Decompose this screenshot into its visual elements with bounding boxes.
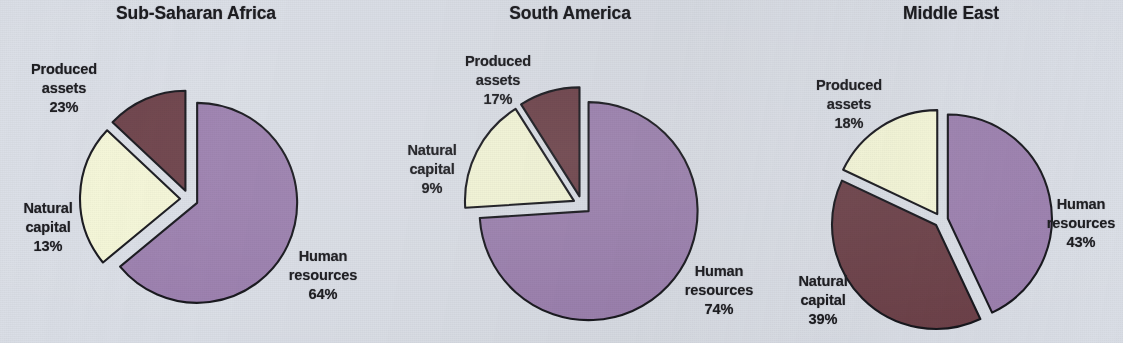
label-line-1: Natural bbox=[775, 272, 871, 291]
pie-chart-row: Sub-Saharan Africa Produced assets 23% N… bbox=[0, 0, 1123, 343]
label-line-2: resources bbox=[1025, 214, 1123, 233]
chart-title: Sub-Saharan Africa bbox=[0, 3, 386, 24]
label-value: 13% bbox=[0, 237, 96, 256]
label-value: 23% bbox=[6, 98, 122, 117]
chart-title: Middle East bbox=[743, 3, 1123, 24]
label-line-1: Produced bbox=[6, 60, 122, 79]
slice-label-produced-assets: Produced assets 23% bbox=[6, 60, 122, 117]
label-line-1: Human bbox=[1025, 195, 1123, 214]
label-line-2: assets bbox=[791, 95, 907, 114]
label-line-2: capital bbox=[775, 291, 871, 310]
label-value: 18% bbox=[791, 114, 907, 133]
chart-panel-south-america: South America Produced assets 17% Natura… bbox=[372, 0, 752, 343]
label-line-2: assets bbox=[6, 79, 122, 98]
label-line-1: Human bbox=[268, 247, 378, 266]
label-line-2: capital bbox=[0, 218, 96, 237]
label-line-2: assets bbox=[440, 71, 556, 90]
slice-label-natural-capital: Natural capital 9% bbox=[384, 141, 480, 198]
slice-label-produced-assets: Produced assets 17% bbox=[440, 52, 556, 109]
label-line-1: Produced bbox=[440, 52, 556, 71]
chart-panel-middle-east: Middle East Produced assets 18% Natural … bbox=[743, 0, 1123, 343]
slice-label-natural-capital: Natural capital 13% bbox=[0, 199, 96, 256]
label-line-2: capital bbox=[384, 160, 480, 179]
label-value: 17% bbox=[440, 90, 556, 109]
label-value: 9% bbox=[384, 179, 480, 198]
label-line-2: resources bbox=[268, 266, 378, 285]
slice-label-produced-assets: Produced assets 18% bbox=[791, 76, 907, 133]
slice-label-human-resources: Human resources 43% bbox=[1025, 195, 1123, 252]
label-value: 43% bbox=[1025, 233, 1123, 252]
chart-panel-sub-saharan-africa: Sub-Saharan Africa Produced assets 23% N… bbox=[0, 0, 380, 343]
label-line-1: Natural bbox=[0, 199, 96, 218]
label-value: 39% bbox=[775, 310, 871, 329]
label-line-1: Produced bbox=[791, 76, 907, 95]
slice-label-human-resources: Human resources 64% bbox=[268, 247, 378, 304]
label-value: 64% bbox=[268, 285, 378, 304]
label-line-1: Natural bbox=[384, 141, 480, 160]
chart-title: South America bbox=[372, 3, 760, 24]
slice-label-natural-capital: Natural capital 39% bbox=[775, 272, 871, 329]
